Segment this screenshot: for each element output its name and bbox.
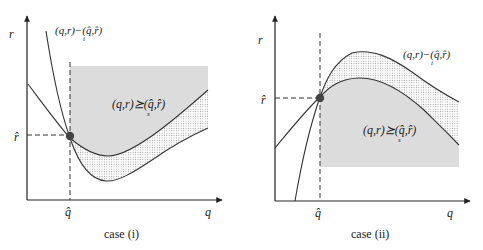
figure-canvas: r q r̂ q̂ (q,r)−(q̂,r̂) i (q,r)⪰(q̂,r̂) … <box>0 0 483 250</box>
indifference-label-i: (q,r)−(q̂,r̂) <box>55 24 102 37</box>
indifference-label-ii: (q,r)−(q̂,r̂) <box>403 48 450 61</box>
caption-case-i: case (i) <box>104 227 139 241</box>
tick-qhat-i: q̂ <box>65 205 71 219</box>
tick-qhat-ii: q̂ <box>315 206 321 220</box>
preference-label-i: (q,r)⪰(q̂,r̂) <box>112 97 165 111</box>
tick-rhat-ii: r̂ <box>261 93 266 107</box>
reference-point-ii <box>316 94 324 102</box>
panel-case-i: r q r̂ q̂ (q,r)−(q̂,r̂) i (q,r)⪰(q̂,r̂) … <box>9 16 222 241</box>
axis-y-label-i: r <box>9 27 14 41</box>
indifference-sub-ii: i <box>431 59 433 67</box>
axis-x-label-i: q <box>205 205 211 219</box>
preference-sub-i: s <box>147 110 150 118</box>
preference-label-ii: (q,r)⪰(q̂,r̂) <box>363 123 416 137</box>
preference-sub-ii: s <box>398 136 401 144</box>
panel-case-ii: r q r̂ q̂ (q,r)−(q̂,r̂) i (q,r)⪰(q̂,r̂) … <box>258 16 470 241</box>
reference-point-i <box>66 132 74 140</box>
indifference-sub-i: i <box>83 35 85 43</box>
caption-case-ii: case (ii) <box>351 227 389 241</box>
axis-y-label-ii: r <box>258 33 263 47</box>
tick-rhat-i: r̂ <box>14 130 19 144</box>
axis-x-label-ii: q <box>447 206 453 220</box>
